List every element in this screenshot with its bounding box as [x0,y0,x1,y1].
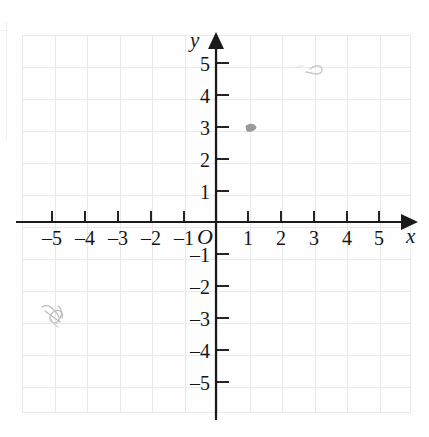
x-tick-label-neg4: –4 [70,228,100,248]
y-tick-label-1: 1 [184,182,210,202]
x-tick-label-5: 5 [364,228,394,248]
y-axis-arrowhead [208,32,224,49]
y-tick-label-2: 2 [184,150,210,170]
y-tick-label-5: 5 [184,54,210,74]
y-tick-label-neg3: –3 [178,309,210,329]
y-tick-label-neg2: –2 [178,277,210,297]
x-tick-label-4: 4 [332,228,362,248]
x-tick-label-neg5: –5 [37,228,67,248]
x-tick-label-neg3: –3 [103,228,133,248]
y-tick-label-neg4: –4 [178,341,210,361]
pencil-dot-mark [246,124,256,131]
y-tick-label-3: 3 [184,118,210,138]
y-tick-label-neg5: –5 [178,373,210,393]
x-axis-name-label: x [406,226,415,247]
x-tick-label-3: 3 [299,228,329,248]
coordinate-plane-figure: y x O –5 –4 –3 –2 –1 1 2 3 4 5 5 4 3 2 1… [0,0,429,437]
pencil-loop-mark [296,66,322,74]
y-tick-label-4: 4 [184,86,210,106]
plot-canvas [0,0,429,437]
y-tick-label-neg1: –1 [178,245,210,265]
y-axis-name-label: y [190,30,199,51]
x-tick-label-2: 2 [266,228,296,248]
x-tick-label-1: 1 [233,228,263,248]
x-tick-label-neg2: –2 [136,228,166,248]
